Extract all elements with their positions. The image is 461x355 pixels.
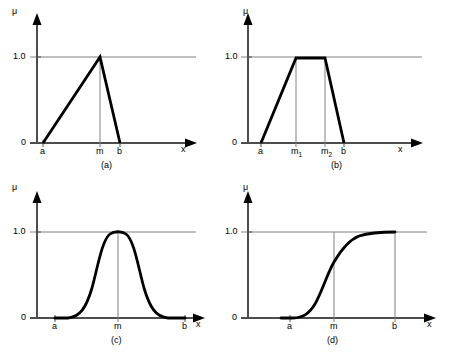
panel-a-plot bbox=[0, 0, 230, 177]
panel-caption-b: (b) bbox=[331, 161, 342, 170]
y-axis-label: μ bbox=[12, 183, 17, 192]
x-axis-label: x bbox=[398, 145, 403, 154]
ytick-label-zero: 0 bbox=[21, 313, 26, 322]
xtick-label-b: b bbox=[117, 147, 122, 156]
y-axis-label: μ bbox=[12, 7, 17, 16]
ytick-label-one: 1.0 bbox=[13, 52, 26, 61]
y-axis-label: μ bbox=[243, 183, 248, 192]
panel-caption-c: (c) bbox=[111, 336, 122, 345]
y-axis-arrow-icon bbox=[33, 13, 42, 25]
x-axis-label: x bbox=[427, 320, 432, 329]
x-axis-label: x bbox=[196, 320, 201, 329]
panel-caption-d: (d) bbox=[327, 336, 338, 345]
xtick-label-b: b bbox=[341, 147, 346, 156]
membership-curve-triangular bbox=[43, 57, 120, 143]
x-axis-arrow-icon bbox=[185, 139, 197, 148]
xtick-label-m2-sub: 2 bbox=[329, 151, 333, 158]
xtick-label-a: a bbox=[287, 322, 292, 331]
xtick-label-m1-base: m bbox=[291, 146, 299, 156]
xtick-label-m1-sub: 1 bbox=[299, 151, 303, 158]
xtick-label-b: b bbox=[182, 322, 187, 331]
ytick-label-zero: 0 bbox=[232, 313, 237, 322]
membership-curve-bell bbox=[55, 232, 185, 318]
ytick-label-one: 1.0 bbox=[225, 52, 238, 61]
panel-caption-a: (a) bbox=[101, 161, 112, 170]
xtick-label-a: a bbox=[40, 147, 45, 156]
x-axis-label: x bbox=[181, 145, 186, 154]
xtick-label-m2: m2 bbox=[321, 147, 332, 159]
chart-panel-a: μ x 1.0 0 a m b (a) bbox=[0, 0, 230, 177]
xtick-label-m: m bbox=[114, 322, 122, 331]
ytick-label-one: 1.0 bbox=[225, 227, 238, 236]
xtick-label-b: b bbox=[392, 322, 397, 331]
y-axis-arrow-icon bbox=[33, 191, 42, 203]
xtick-label-a: a bbox=[258, 147, 263, 156]
y-axis-label: μ bbox=[243, 7, 248, 16]
chart-panel-b: μ x 1.0 0 a m1 m2 b (b) bbox=[231, 0, 461, 177]
ytick-label-zero: 0 bbox=[232, 138, 237, 147]
xtick-label-m2-base: m bbox=[321, 146, 329, 156]
xtick-label-m: m bbox=[330, 322, 338, 331]
chart-panel-c: μ x 1.0 0 a m b (c) bbox=[0, 178, 230, 355]
chart-panel-d: μ x 1.0 0 a m b (d) bbox=[231, 178, 461, 355]
xtick-label-a: a bbox=[52, 322, 57, 331]
ytick-label-zero: 0 bbox=[21, 138, 26, 147]
xtick-label-m: m bbox=[96, 147, 104, 156]
membership-curve-trapezoidal bbox=[261, 58, 344, 143]
xtick-label-m1: m1 bbox=[291, 147, 302, 159]
y-axis-arrow-icon bbox=[244, 191, 253, 203]
ytick-label-one: 1.0 bbox=[13, 227, 26, 236]
membership-curve-s-shape bbox=[281, 232, 395, 318]
x-axis-arrow-icon bbox=[411, 139, 423, 148]
fuzzy-membership-functions-figure: μ x 1.0 0 a m b (a) μ x 1.0 0 a m1 m2 b bbox=[0, 0, 461, 355]
